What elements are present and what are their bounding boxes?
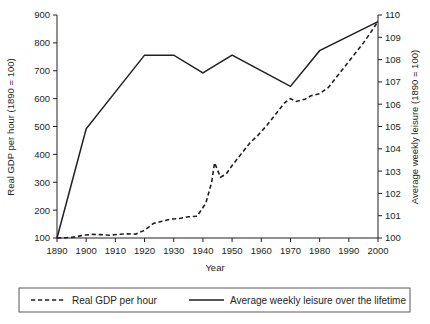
right-tick-label: 104 [385,143,401,154]
x-tick-label: 1980 [309,245,330,256]
x-tick-label: 1900 [76,245,97,256]
right-axis-ticks [378,15,382,238]
x-tick-label: 2000 [367,245,388,256]
plot-area [57,21,378,238]
y-axis-title-left: Real GDP per hour (1890 = 100) [5,58,16,195]
x-axis-tick-labels: 1890190019101920193019401950196019701980… [46,245,388,256]
right-tick-label: 102 [385,188,401,199]
left-tick-label: 600 [34,93,50,104]
x-tick-label: 1950 [222,245,243,256]
left-tick-label: 900 [34,9,50,20]
right-tick-label: 105 [385,121,401,132]
x-tick-label: 1910 [105,245,126,256]
left-tick-label: 100 [34,232,50,243]
x-tick-label: 1970 [280,245,301,256]
right-tick-label: 101 [385,210,401,221]
x-tick-label: 1920 [134,245,155,256]
right-axis: 100101102103104105106107108109110 [378,9,401,243]
left-tick-label: 500 [34,121,50,132]
left-tick-label: 300 [34,177,50,188]
right-tick-label: 100 [385,232,401,243]
x-axis-title: Year [205,262,224,273]
right-tick-label: 103 [385,166,401,177]
x-tick-label: 1940 [192,245,213,256]
x-tick-label: 1890 [46,245,67,256]
left-tick-label: 400 [34,149,50,160]
x-axis-ticks [57,238,378,242]
y-axis-title-right: Average weekly leisure (1890 = 100) [409,50,420,204]
left-axis-tick-labels: 100200300400500600700800900 [34,9,50,243]
right-tick-label: 110 [385,9,400,20]
line-chart: 100200300400500600700800900 100101102103… [0,0,430,324]
x-tick-label: 1990 [338,245,359,256]
right-tick-label: 109 [385,32,401,43]
left-axis-ticks [53,15,57,238]
left-tick-label: 700 [34,65,50,76]
legend-label-real-gdp-per-hour: Real GDP per hour [72,295,158,306]
x-tick-label: 1930 [163,245,184,256]
series-line-average-weekly-leisure [57,22,378,238]
legend-label-average-weekly-leisure: Average weekly leisure over the lifetime [230,295,406,306]
x-tick-label: 1960 [251,245,272,256]
chart-legend: Real GDP per hour Average weekly leisure… [19,288,410,312]
right-axis-tick-labels: 100101102103104105106107108109110 [385,9,401,243]
chart-figure: 100200300400500600700800900 100101102103… [0,0,430,324]
left-tick-label: 800 [34,37,50,48]
series-line-real-gdp-per-hour [57,21,378,238]
right-tick-label: 106 [385,99,401,110]
x-axis: 1890190019101920193019401950196019701980… [46,238,388,256]
left-tick-label: 200 [34,205,50,216]
left-axis: 100200300400500600700800900 [34,9,57,243]
right-tick-label: 107 [385,76,401,87]
right-tick-label: 108 [385,54,401,65]
